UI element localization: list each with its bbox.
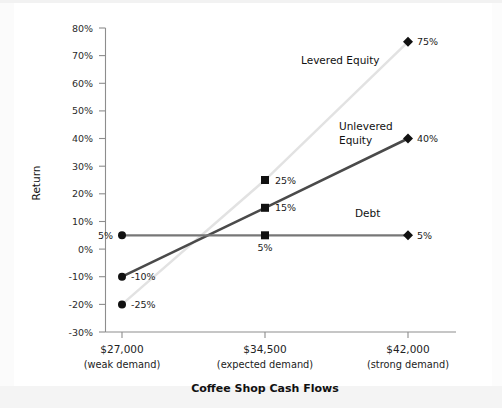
series-label-unlevered-equity-line1: Unlevered xyxy=(339,120,393,132)
y-tick-label-30: 30% xyxy=(72,161,93,172)
y-tick-label-minus20: -20% xyxy=(68,299,93,310)
debt-label-strong: 5% xyxy=(417,230,432,241)
series-unlevered-equity: -10% 15% 40% Unlevered Equity xyxy=(118,120,438,282)
y-tick-label-20: 20% xyxy=(72,188,93,199)
x-tick-label-2: $34,500 xyxy=(243,343,286,355)
y-tick-label-minus10: -10% xyxy=(68,271,93,282)
chart-figure: 80% 70% 60% 50% 40% 30% 20% 10% 0% -10% … xyxy=(0,0,502,408)
y-tick-label-80: 80% xyxy=(72,23,93,34)
series-levered-equity: -25% 25% 75% Levered Equity xyxy=(118,36,438,310)
levered-equity-line xyxy=(122,42,408,305)
series-debt: 5% 5% 5% Debt xyxy=(98,207,432,253)
debt-point-weak xyxy=(118,231,126,239)
x-tick-sublabel-1: (weak demand) xyxy=(84,359,161,370)
x-tick-label-3: $42,000 xyxy=(386,343,429,355)
y-tick-label-minus30: -30% xyxy=(68,327,93,338)
y-tick-label-70: 70% xyxy=(72,50,93,61)
debt-point-expected xyxy=(261,231,269,239)
unlevered-equity-point-weak xyxy=(118,273,126,281)
y-tick-label-50: 50% xyxy=(72,105,93,116)
series-label-debt: Debt xyxy=(355,207,380,219)
levered-equity-label-strong: 75% xyxy=(417,36,438,47)
x-tick-label-1: $27,000 xyxy=(100,343,143,355)
x-tick-sublabel-2: (expected demand) xyxy=(217,359,313,370)
y-ticks xyxy=(99,28,106,332)
y-tick-label-0: 0% xyxy=(78,244,93,255)
y-axis-title: Return xyxy=(30,166,42,201)
y-tick-label-60: 60% xyxy=(72,78,93,89)
unlevered-equity-label-expected: 15% xyxy=(275,202,296,213)
x-axis-title: Coffee Shop Cash Flows xyxy=(191,382,339,395)
x-tick-sublabel-3: (strong demand) xyxy=(367,359,449,370)
y-tick-label-40: 40% xyxy=(72,133,93,144)
levered-equity-label-weak: -25% xyxy=(131,299,156,310)
chart-svg: 80% 70% 60% 50% 40% 30% 20% 10% 0% -10% … xyxy=(0,0,502,408)
debt-label-weak: 5% xyxy=(98,230,113,241)
y-tick-label-10: 10% xyxy=(72,216,93,227)
chart-page: 80% 70% 60% 50% 40% 30% 20% 10% 0% -10% … xyxy=(0,0,502,408)
unlevered-equity-label-weak: -10% xyxy=(131,271,156,282)
debt-label-expected: 5% xyxy=(257,242,272,253)
unlevered-equity-point-expected xyxy=(261,204,269,212)
unlevered-equity-point-strong xyxy=(403,134,413,144)
levered-equity-label-expected: 25% xyxy=(275,175,296,186)
levered-equity-point-weak xyxy=(118,300,126,308)
unlevered-equity-label-strong: 40% xyxy=(417,133,438,144)
series-label-unlevered-equity-line2: Equity xyxy=(339,134,372,146)
x-ticks xyxy=(122,332,408,338)
debt-point-strong xyxy=(403,230,413,240)
y-tick-labels: 80% 70% 60% 50% 40% 30% 20% 10% 0% -10% … xyxy=(68,23,93,338)
series-label-levered-equity: Levered Equity xyxy=(301,54,380,66)
x-tick-labels: $27,000 (weak demand) $34,500 (expected … xyxy=(84,343,449,370)
levered-equity-point-expected xyxy=(261,176,269,184)
